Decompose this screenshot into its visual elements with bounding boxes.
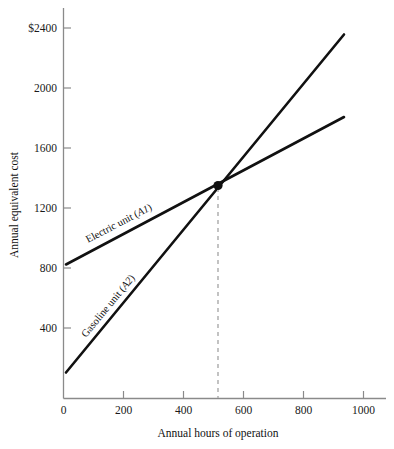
y-axis-ticks xyxy=(64,28,72,328)
y-tick-label-1200: 1200 xyxy=(34,202,57,214)
x-tick-label-200: 200 xyxy=(115,404,133,416)
x-tick-label-600: 600 xyxy=(235,404,253,416)
x-tick-label-1000: 1000 xyxy=(352,404,375,416)
x-tick-label-400: 400 xyxy=(175,404,193,416)
series-line-gasoline-unit xyxy=(66,35,344,373)
y-tick-label-2000: 2000 xyxy=(34,82,57,94)
x-axis-title: Annual hours of operation xyxy=(157,427,278,440)
break-even-point-marker xyxy=(213,181,222,190)
break-even-chart: $2400 2000 1600 1200 800 400 0 200 400 6… xyxy=(0,0,394,449)
x-tick-label-800: 800 xyxy=(295,404,313,416)
y-tick-label-800: 800 xyxy=(40,262,58,274)
x-tick-label-0: 0 xyxy=(61,404,67,416)
y-tick-label-2400: $2400 xyxy=(28,22,57,34)
x-axis-ticks xyxy=(124,391,364,399)
y-axis-title: Annual equivalent cost xyxy=(8,151,21,258)
y-tick-label-400: 400 xyxy=(40,322,58,334)
chart-canvas: $2400 2000 1600 1200 800 400 0 200 400 6… xyxy=(0,0,394,449)
series-line-electric-unit xyxy=(66,117,344,265)
series-label-gasoline-unit: Gasoline unit (A2) xyxy=(79,272,138,340)
series-label-gasoline-text: Gasoline unit ( xyxy=(79,284,128,340)
y-tick-label-1600: 1600 xyxy=(34,142,57,154)
